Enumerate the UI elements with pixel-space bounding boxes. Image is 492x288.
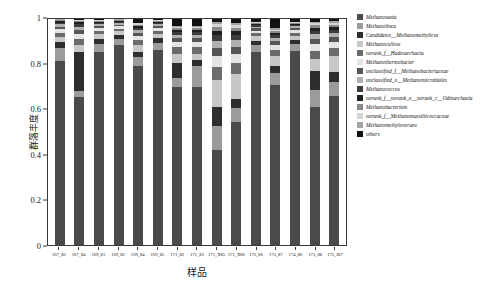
legend-item[interactable]: unclassified_o__Methanomicrobiales [357,76,490,83]
bar-segment[interactable] [231,99,241,108]
bar-segment[interactable] [231,47,241,54]
legend-item[interactable]: others [357,130,490,137]
bar-segment[interactable] [192,87,202,245]
stacked-bar[interactable] [212,19,222,245]
stacked-bar[interactable] [310,19,320,245]
stacked-bar[interactable] [94,19,104,245]
stacked-bar[interactable] [133,19,143,245]
bar-segment[interactable] [172,54,182,63]
bar-column[interactable] [251,19,261,245]
bar-segment[interactable] [133,66,143,245]
bar-segment[interactable] [212,150,222,245]
bar-segment[interactable] [114,45,124,245]
bar-segment[interactable] [329,96,339,245]
stacked-bar[interactable] [290,19,300,245]
bar-segment[interactable] [172,87,182,245]
bar-segment[interactable] [153,50,163,245]
bar-segment[interactable] [231,122,241,245]
bar-segment[interactable] [329,82,339,96]
stacked-bar[interactable] [153,19,163,245]
bar-segment[interactable] [133,45,143,52]
legend-item[interactable]: norank_f__norank_o__norank_c__Odinarchae… [357,94,490,101]
bar-segment[interactable] [55,42,65,49]
bar-column[interactable] [310,19,320,245]
bar-segment[interactable] [172,63,182,78]
bar-column[interactable] [153,19,163,245]
legend-item[interactable]: Methanomethylovorans [357,121,490,128]
bar-segment[interactable] [310,59,320,71]
legend-item[interactable]: Methanolinea [357,22,490,29]
bar-segment[interactable] [270,56,280,66]
bar-segment[interactable] [231,74,241,99]
stacked-bar[interactable] [192,19,202,245]
bar-segment[interactable] [270,85,280,245]
bar-segment[interactable] [329,72,339,82]
bar-column[interactable] [133,19,143,245]
stacked-bar[interactable] [251,19,261,245]
bar-segment[interactable] [212,56,222,66]
bar-segment[interactable] [212,67,222,81]
legend-item[interactable]: unclassified_f__Methanobacteriaceae [357,67,490,74]
legend-item[interactable]: Methanosaeta [357,13,490,20]
stacked-bar[interactable] [270,19,280,245]
legend-item[interactable]: Candidatus__Methanomethylicus [357,31,490,38]
bar-segment[interactable] [74,97,84,245]
bar-segment[interactable] [172,47,182,54]
bar-column[interactable] [114,19,124,245]
stacked-bar[interactable] [74,19,84,245]
bar-segment[interactable] [329,48,339,56]
legend-item[interactable]: norank_f__Methanomassiliicoccaceae [357,112,490,119]
bar-segment[interactable] [133,57,143,66]
bar-segment[interactable] [310,90,320,107]
bar-segment[interactable] [55,48,65,60]
bar-column[interactable] [172,19,182,245]
stacked-bar[interactable] [172,19,182,245]
bar-column[interactable] [212,19,222,245]
stacked-bar[interactable] [55,19,65,245]
stacked-bar[interactable] [114,19,124,245]
bar-segment[interactable] [231,63,241,74]
bar-segment[interactable] [310,107,320,245]
bar-segment[interactable] [329,56,339,72]
bar-segment[interactable] [94,44,104,52]
bar-segment[interactable] [270,73,280,84]
legend-item[interactable]: norank_f__Hadesarchaeia [357,49,490,56]
bar-column[interactable] [192,19,202,245]
bar-column[interactable] [74,19,84,245]
bar-column[interactable] [270,19,280,245]
bar-segment[interactable] [55,61,65,245]
bar-column[interactable] [329,19,339,245]
bar-segment[interactable] [192,66,202,86]
bar-segment[interactable] [290,51,300,245]
bar-segment[interactable] [270,19,280,28]
bar-segment[interactable] [212,48,222,57]
bar-segment[interactable] [310,71,320,90]
bar-segment[interactable] [212,80,222,107]
bar-segment[interactable] [270,66,280,73]
bar-segment[interactable] [172,78,182,87]
bar-segment[interactable] [74,52,84,90]
bar-segment[interactable] [192,60,202,67]
bar-column[interactable] [55,19,65,245]
stacked-bar[interactable] [329,19,339,245]
bar-column[interactable] [231,19,241,245]
bar-segment[interactable] [310,51,320,59]
legend-item[interactable]: Methanothermobacter [357,58,490,65]
bar-segment[interactable] [153,43,163,50]
bar-segment[interactable] [74,45,84,53]
legend-item[interactable]: Methanobacterium [357,103,490,110]
bar-segment[interactable] [74,91,84,98]
bar-segment[interactable] [94,52,104,245]
bar-column[interactable] [94,19,104,245]
bar-segment[interactable] [212,126,222,150]
bar-segment[interactable] [192,47,202,54]
bar-segment[interactable] [212,107,222,126]
stacked-bar[interactable] [231,19,241,245]
legend-item[interactable]: Methanoculleus [357,40,490,47]
bar-segment[interactable] [212,41,222,48]
bar-segment[interactable] [251,52,261,245]
bar-segment[interactable] [231,54,241,63]
bar-segment[interactable] [231,108,241,122]
legend-item[interactable]: Methanococcus [357,85,490,92]
bar-column[interactable] [290,19,300,245]
